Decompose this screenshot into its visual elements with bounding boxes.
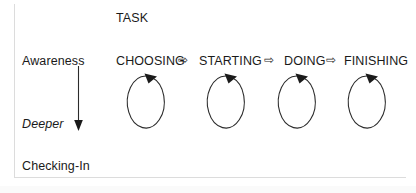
axis-label-checking-in: Checking-In (22, 160, 90, 173)
flow-arrow-icon-2: ⇨ (264, 54, 274, 66)
axis-label-deeper: Deeper (22, 118, 64, 131)
circular-loop-arrow-icon-starting (207, 74, 244, 128)
circular-loop-arrow-icon-choosing (127, 74, 164, 128)
stage-label-starting: STARTING (199, 55, 262, 68)
frame-left-rule (14, 4, 15, 178)
flow-arrow-icon-3: ⇨ (326, 54, 336, 66)
stage-label-choosing: CHOOSING (116, 55, 185, 68)
stage-label-finishing: FINISHING (344, 55, 408, 68)
flow-arrow-icon-1: ⇨ (178, 54, 188, 66)
stage-label-doing: DOING (284, 55, 325, 68)
down-arrow-icon (74, 66, 83, 131)
circular-loop-arrow-icon-doing (278, 74, 315, 128)
diagram-title: TASK (116, 12, 148, 25)
frame-bottom-rule (14, 177, 406, 178)
diagram-canvas: TASK Awareness Deeper Checking-In CHOOSI… (0, 0, 416, 193)
circular-loop-arrow-icon-finishing (348, 74, 385, 128)
frame-bottom-shade (0, 186, 416, 193)
axis-label-awareness: Awareness (22, 55, 85, 68)
